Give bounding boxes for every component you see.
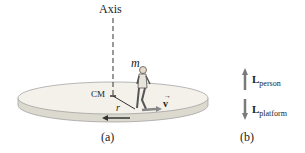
- velocity-label: →v: [163, 99, 168, 109]
- l-person-label: Lperson: [252, 74, 281, 88]
- cm-label: CM: [91, 90, 105, 99]
- radius-label: r: [116, 103, 120, 113]
- caption-a: (a): [101, 131, 114, 143]
- l-platform-label: Lplatform: [252, 104, 287, 118]
- mass-label: m: [131, 57, 140, 69]
- velocity-arrow: [142, 109, 156, 110]
- caption-b: (b): [240, 131, 254, 143]
- axis-label: Axis: [99, 3, 122, 15]
